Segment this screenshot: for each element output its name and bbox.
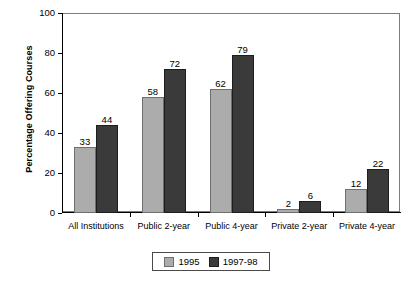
- x-category-label: Private 4-year: [333, 220, 401, 232]
- bar-value-label: 2: [286, 198, 291, 209]
- bar: 2: [277, 209, 299, 213]
- bar-value-label: 58: [147, 86, 158, 97]
- y-tick-label: 80: [44, 46, 55, 59]
- bar-value-label: 62: [215, 78, 226, 89]
- bar: 72: [164, 69, 186, 213]
- y-tick-label: 100: [39, 6, 55, 19]
- bar-chart: Percentage Offering Courses 020406080100…: [0, 0, 417, 288]
- y-tick-label: 40: [44, 126, 55, 139]
- x-category-label: Public 4-year: [198, 220, 266, 232]
- light-gray-swatch: [164, 257, 174, 267]
- y-tick-mark: [58, 213, 62, 214]
- bar: 33: [74, 147, 96, 213]
- bar-value-label: 6: [308, 190, 313, 201]
- bar: 12: [345, 189, 367, 213]
- bar-value-label: 72: [169, 58, 180, 69]
- bar-value-label: 22: [373, 158, 384, 169]
- bar-value-label: 33: [80, 136, 91, 147]
- y-tick-100: 100: [0, 13, 62, 14]
- y-tick-60: 60: [0, 93, 62, 94]
- x-category-label: Public 2-year: [130, 220, 198, 232]
- legend-entry: 1995: [164, 256, 199, 267]
- bar: 62: [210, 89, 232, 213]
- bar: 79: [232, 55, 254, 213]
- bar: 44: [96, 125, 118, 213]
- bar: 6: [299, 201, 321, 213]
- y-tick-40: 40: [0, 133, 62, 134]
- bar-value-label: 12: [351, 178, 362, 189]
- legend-label: 1995: [178, 256, 199, 267]
- x-tick-mark: [265, 213, 266, 217]
- legend-label: 1997-98: [223, 256, 258, 267]
- chart-legend: 19951997-98: [152, 252, 270, 271]
- y-tick-label: 60: [44, 86, 55, 99]
- y-tick-label: 20: [44, 166, 55, 179]
- dark-gray-swatch: [209, 257, 219, 267]
- y-axis-title: Percentage Offering Courses: [24, 19, 34, 199]
- x-tick-mark: [198, 213, 199, 217]
- legend-entry: 1997-98: [209, 256, 258, 267]
- y-tick-80: 80: [0, 53, 62, 54]
- x-tick-mark: [130, 213, 131, 217]
- x-category-label: Private 2-year: [265, 220, 333, 232]
- bar-value-label: 44: [102, 114, 113, 125]
- x-tick-mark: [333, 213, 334, 217]
- y-tick-0: 0: [0, 213, 62, 214]
- bars-layer: 334458726279261222: [62, 13, 401, 213]
- bar-value-label: 79: [237, 44, 248, 55]
- x-category-label: All Institutions: [62, 220, 130, 232]
- y-tick-label: 0: [50, 206, 55, 219]
- bar: 58: [142, 97, 164, 213]
- y-tick-20: 20: [0, 173, 62, 174]
- bar: 22: [367, 169, 389, 213]
